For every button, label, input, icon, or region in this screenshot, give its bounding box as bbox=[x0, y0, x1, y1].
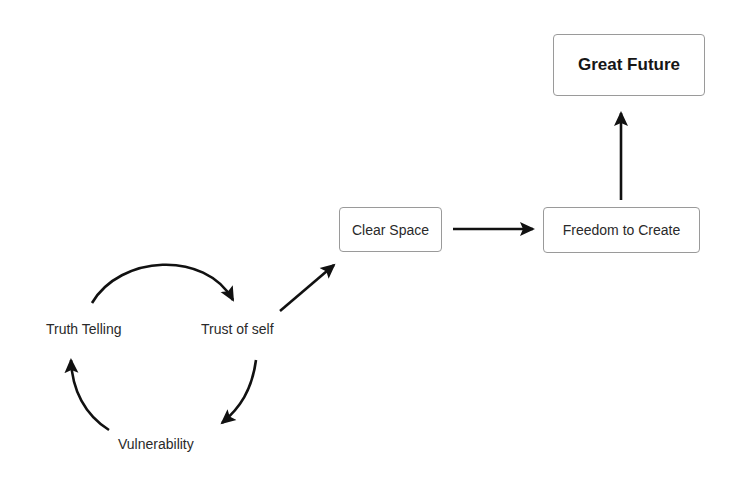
node-great-future: Great Future bbox=[553, 34, 705, 96]
node-clear-space: Clear Space bbox=[339, 207, 442, 252]
diagram-canvas: Great Future Clear Space Freedom to Crea… bbox=[0, 0, 745, 486]
node-freedom-to-create-label: Freedom to Create bbox=[563, 222, 681, 238]
arrow-trust-to-vulnerability bbox=[222, 360, 256, 423]
node-freedom-to-create: Freedom to Create bbox=[543, 207, 700, 253]
arrow-truth-to-trust bbox=[92, 265, 233, 303]
arrow-trust-to-clear-space bbox=[280, 265, 334, 311]
node-great-future-label: Great Future bbox=[578, 55, 680, 75]
node-trust-of-self: Trust of self bbox=[201, 321, 274, 337]
arrow-vulnerability-to-truth bbox=[71, 360, 109, 430]
node-truth-telling: Truth Telling bbox=[46, 321, 121, 337]
node-vulnerability: Vulnerability bbox=[118, 436, 194, 452]
node-clear-space-label: Clear Space bbox=[352, 222, 429, 238]
